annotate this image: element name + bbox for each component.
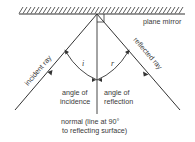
- reflection-symbol: r: [111, 59, 115, 68]
- reflection-label-line1: angle of: [104, 88, 130, 97]
- incidence-symbol: i: [82, 59, 84, 68]
- reflection-label-line2: reflection: [104, 97, 133, 106]
- mirror-label: plane mirror: [143, 17, 182, 26]
- incidence-label-line1: angle of: [62, 88, 88, 97]
- reflected-ray-label: reflected ray: [131, 35, 164, 71]
- reflection-diagram: plane mirror incident ray reflected ray …: [0, 0, 195, 142]
- mirror-hatching: [19, 7, 183, 14]
- normal-label-line1: normal (line at 90°: [61, 117, 120, 126]
- incidence-label-line2: incidence: [60, 97, 90, 106]
- normal-label-line2: to reflecting surface): [62, 126, 127, 135]
